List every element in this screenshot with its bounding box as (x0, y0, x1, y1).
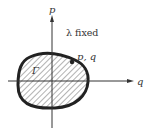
q-axis-label: q (137, 76, 143, 87)
state-point (70, 60, 74, 64)
region-label: Γ (31, 65, 40, 76)
p-axis-label: p (49, 4, 56, 15)
point-label: p, q (77, 51, 96, 62)
phase-space-diagram: p q λ fixed p, q Γ (0, 0, 148, 133)
lambda-fixed-annotation: λ fixed (66, 27, 98, 38)
